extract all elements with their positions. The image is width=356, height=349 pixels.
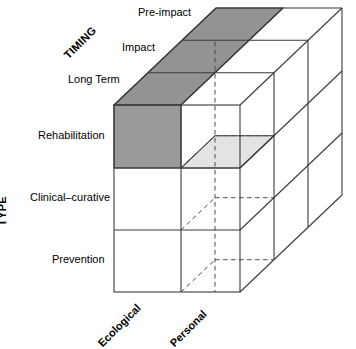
hidden-edge-depth-row2 <box>181 198 215 230</box>
timing-label-impact: Impact <box>122 42 155 53</box>
timing-label-pre-impact: Pre-impact <box>138 7 191 18</box>
type-label-prevention: Prevention <box>52 254 105 265</box>
type-label-rehabilitation: Rehabilitation <box>38 130 105 141</box>
axis-title-type: TYPE <box>0 196 8 226</box>
type-label-clinical-curative: Clinical–curative <box>30 192 110 203</box>
depth-edge-bottom-right <box>240 195 342 292</box>
timing-label-long-term: Long Term <box>68 74 120 85</box>
highlight-light-cell <box>181 136 274 168</box>
hidden-edge-depth-row3 <box>181 260 215 292</box>
